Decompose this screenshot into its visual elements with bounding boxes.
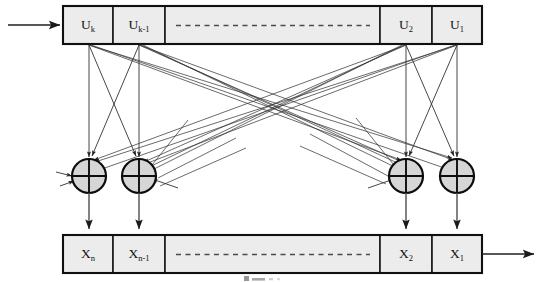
figure-container: Uk Uk-1 U2 U1	[0, 0, 541, 282]
xor-node-2[interactable]	[122, 159, 156, 193]
caption-fragment	[244, 276, 280, 281]
x-register: Xn Xn-1 X2 X1	[63, 235, 482, 273]
adder-output-wires	[89, 193, 457, 229]
adder-nodes	[72, 159, 474, 193]
u-register: Uk Uk-1 U2 U1	[63, 6, 482, 44]
xor-node-1[interactable]	[72, 159, 106, 193]
xor-node-3[interactable]	[389, 159, 423, 193]
xor-node-4[interactable]	[440, 159, 474, 193]
shift-register-diagram: Uk Uk-1 U2 U1	[0, 0, 541, 282]
